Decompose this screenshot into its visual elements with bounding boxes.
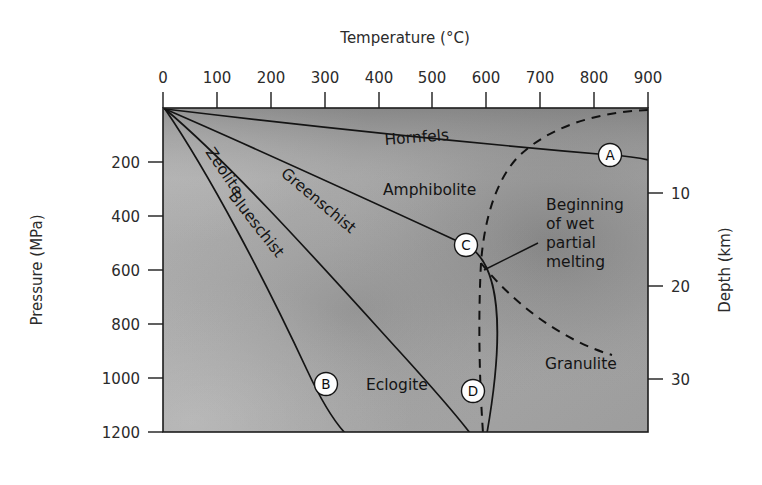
ytick-label-1200: 1200	[102, 424, 140, 442]
xtick-label-300: 300	[311, 69, 340, 87]
ytick-label-200: 200	[111, 154, 140, 172]
marker-a-letter: A	[605, 147, 615, 163]
marker-c-letter: C	[461, 237, 470, 253]
xtick-label-900: 900	[634, 69, 663, 87]
melting-line-1: Beginning	[546, 196, 624, 214]
xtick-label-0: 0	[158, 69, 168, 87]
marker-c[interactable]: C	[455, 234, 478, 257]
label-amphibolite: Amphibolite	[383, 181, 476, 199]
marker-d[interactable]: D	[462, 380, 485, 403]
left-axis: 200 400 600 800 1000 1200 Pressure (MPa)	[28, 154, 163, 442]
marker-d-letter: D	[468, 383, 478, 399]
y2-axis-title: Depth (km)	[716, 227, 734, 312]
marker-a[interactable]: A	[599, 144, 622, 167]
label-granulite: Granulite	[545, 355, 617, 373]
ytick-label-400: 400	[111, 208, 140, 226]
melting-line-3: partial	[546, 234, 596, 252]
xtick-label-200: 200	[257, 69, 286, 87]
top-axis: 0 100 200 300 400 500 600 700 800 900 Te…	[158, 29, 662, 108]
y2tick-label-20: 20	[671, 278, 690, 296]
marker-b[interactable]: B	[315, 373, 338, 396]
xtick-label-800: 800	[580, 69, 609, 87]
ytick-label-800: 800	[111, 316, 140, 334]
xtick-label-100: 100	[203, 69, 232, 87]
label-eclogite: Eclogite	[366, 376, 428, 394]
y-axis-title: Pressure (MPa)	[28, 214, 46, 325]
marker-b-letter: B	[321, 376, 330, 392]
xtick-label-600: 600	[472, 69, 501, 87]
xtick-label-700: 700	[526, 69, 555, 87]
right-axis: 10 20 30 Depth (km)	[648, 185, 734, 389]
y2tick-label-10: 10	[671, 185, 690, 203]
x-axis-title: Temperature (°C)	[339, 29, 469, 47]
y2tick-label-30: 30	[671, 371, 690, 389]
melting-line-2: of wet	[546, 215, 594, 233]
melting-line-4: melting	[546, 253, 605, 271]
xtick-label-500: 500	[418, 69, 447, 87]
xtick-label-400: 400	[365, 69, 394, 87]
ytick-label-600: 600	[111, 262, 140, 280]
diagram-canvas: Zeolite Blueschist Greenschist Hornfels …	[0, 0, 762, 485]
metamorphic-facies-diagram: Zeolite Blueschist Greenschist Hornfels …	[0, 0, 762, 485]
ytick-label-1000: 1000	[102, 370, 140, 388]
